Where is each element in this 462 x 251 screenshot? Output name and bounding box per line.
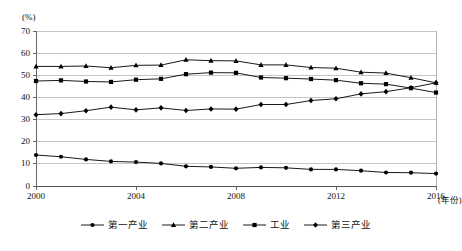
legend-marker-triangle-icon (161, 220, 186, 230)
y-tick-label: 60 (6, 49, 30, 58)
data-point-marker (384, 89, 389, 95)
data-point-marker (234, 166, 238, 170)
legend-item-4[interactable]: 第三产业 (303, 220, 371, 230)
legend-item-2[interactable]: 第二产业 (161, 220, 229, 230)
series-line (36, 155, 436, 174)
data-point-marker (184, 108, 189, 114)
data-point-marker (284, 166, 288, 170)
data-point-marker (252, 223, 256, 227)
data-point-marker (109, 80, 113, 84)
data-point-marker (359, 169, 363, 173)
data-point-marker (109, 104, 114, 110)
data-series-layer (33, 57, 438, 176)
data-point-marker (259, 75, 263, 79)
x-tick-label: 2004 (116, 192, 156, 201)
data-point-marker (134, 107, 139, 113)
y-tick-label: 30 (6, 115, 30, 124)
data-point-marker (209, 165, 213, 169)
y-tick-label: 50 (6, 71, 30, 80)
legend-marker-diamond-icon (303, 220, 328, 230)
data-point-marker (309, 77, 313, 81)
data-point-marker (159, 161, 163, 165)
data-point-marker (209, 106, 214, 112)
data-point-marker (209, 71, 213, 75)
data-point-marker (159, 105, 164, 111)
data-point-marker (59, 111, 64, 117)
data-point-marker (284, 102, 289, 108)
legend-marker-square-icon (242, 220, 267, 230)
data-point-marker (90, 223, 94, 227)
data-point-marker (184, 164, 188, 168)
legend-label: 第三产业 (331, 220, 371, 230)
x-axis-title: (年份) (438, 193, 462, 205)
data-point-marker (134, 160, 138, 164)
data-point-marker (84, 79, 88, 83)
data-point-marker (359, 91, 364, 97)
series-1 (34, 153, 438, 176)
data-point-marker (409, 171, 413, 175)
chart-legend: 第一产业第二产业工业第三产业 (0, 220, 450, 230)
data-point-marker (34, 112, 39, 118)
data-point-marker (284, 76, 288, 80)
data-point-marker (134, 78, 138, 82)
data-point-marker (309, 167, 313, 171)
data-point-marker (109, 159, 113, 163)
data-point-marker (434, 90, 438, 94)
x-tick-label: 2000 (16, 192, 56, 201)
legend-label: 第二产业 (189, 220, 229, 230)
data-point-marker (434, 172, 438, 176)
data-point-marker (59, 155, 63, 159)
data-point-marker (34, 153, 38, 157)
data-point-marker (84, 157, 88, 161)
legend-item-3[interactable]: 工业 (242, 220, 290, 230)
y-tick-label: 10 (6, 159, 30, 168)
data-point-marker (234, 106, 239, 112)
data-point-marker (184, 72, 188, 76)
data-point-marker (359, 81, 363, 85)
legend-label: 工业 (270, 220, 290, 230)
legend-label: 第一产业 (108, 220, 148, 230)
data-point-marker (84, 108, 89, 114)
x-tick-label: 2008 (216, 192, 256, 201)
data-point-marker (59, 78, 63, 82)
data-point-marker (334, 78, 338, 82)
data-point-marker (313, 222, 318, 228)
data-point-marker (259, 165, 263, 169)
y-tick-label: 70 (6, 27, 30, 36)
data-point-marker (384, 170, 388, 174)
data-point-marker (34, 79, 38, 83)
data-point-marker (384, 82, 388, 86)
y-tick-label: 20 (6, 137, 30, 146)
legend-item-1[interactable]: 第一产业 (80, 220, 148, 230)
data-point-marker (159, 77, 163, 81)
data-point-marker (259, 102, 264, 108)
x-tick-label: 2012 (316, 192, 356, 201)
data-point-marker (183, 57, 188, 62)
data-point-marker (234, 71, 238, 75)
series-4 (34, 80, 439, 117)
y-tick-label: 40 (6, 93, 30, 102)
y-tick-label: 0 (6, 182, 30, 191)
data-point-marker (334, 96, 339, 102)
data-point-marker (334, 167, 338, 171)
data-point-marker (309, 98, 314, 104)
legend-marker-circle-icon (80, 220, 105, 230)
series-3 (34, 71, 438, 95)
